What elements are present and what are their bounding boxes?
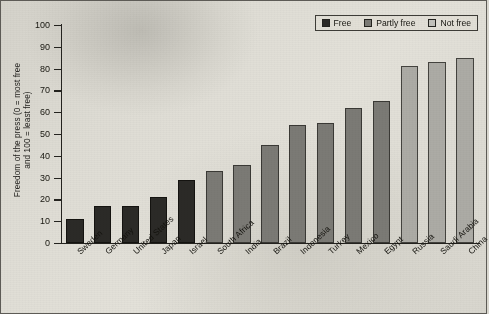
bar-saudi-arabia[interactable]: [428, 62, 445, 243]
y-axis-tick: 20: [54, 199, 61, 200]
x-label-cell: Turkey: [312, 246, 340, 312]
y-axis-tick-label: 60: [40, 107, 50, 117]
x-axis-category-labels: SwedenGermanyUnited StatesJapanIsraelSou…: [61, 246, 480, 312]
chart-legend: FreePartly freeNot free: [315, 15, 478, 31]
y-axis-tick: 30: [54, 178, 61, 179]
y-axis-tick: 60: [54, 112, 61, 113]
y-axis-tick: 100: [54, 25, 61, 26]
bar-russia[interactable]: [401, 66, 418, 243]
bar-cell: [172, 25, 200, 243]
legend-swatch-icon-not: [428, 19, 436, 27]
x-label-cell: Israel: [173, 246, 201, 312]
bar-cell: [145, 25, 173, 243]
x-label-cell: Sweden: [61, 246, 89, 312]
x-label-cell: Indonesia: [285, 246, 313, 312]
bar-israel[interactable]: [178, 180, 195, 243]
bar-cell: [395, 25, 423, 243]
bar-cell: [367, 25, 395, 243]
bar-cell: [200, 25, 228, 243]
y-axis-tick-label: 10: [40, 216, 50, 226]
x-label-cell: India: [229, 246, 257, 312]
legend-swatch-icon-partly: [364, 19, 372, 27]
plot-area: 0102030405060708090100: [61, 25, 479, 243]
x-label-cell: Germany: [89, 246, 117, 312]
y-axis-tick-label: 80: [40, 64, 50, 74]
bar-indonesia[interactable]: [289, 125, 306, 243]
y-axis-tick: 0: [54, 243, 61, 244]
bar-brazil[interactable]: [261, 145, 278, 243]
legend-label: Not free: [440, 18, 471, 28]
bar-sweden[interactable]: [66, 219, 83, 243]
x-label-cell: Russia: [396, 246, 424, 312]
y-axis-tick: 70: [54, 90, 61, 91]
x-label-cell: Saudi Arabia: [424, 246, 452, 312]
y-axis-tick: 90: [54, 47, 61, 48]
bar-series-group: [61, 25, 479, 243]
y-axis-tick-label: 20: [40, 194, 50, 204]
bar-cell: [423, 25, 451, 243]
y-axis-tick-label: 70: [40, 85, 50, 95]
legend-item-not[interactable]: Not free: [428, 18, 471, 28]
y-axis-tick-label: 50: [40, 129, 50, 139]
legend-label: Free: [334, 18, 352, 28]
x-label-cell: Japan: [145, 246, 173, 312]
bar-china[interactable]: [456, 58, 473, 243]
bar-cell: [117, 25, 145, 243]
bar-mexico[interactable]: [345, 108, 362, 243]
x-label-cell: South Africa: [201, 246, 229, 312]
y-axis-tick-label: 90: [40, 42, 50, 52]
bar-cell: [312, 25, 340, 243]
y-axis-tick: 80: [54, 69, 61, 70]
y-axis-tick: 40: [54, 156, 61, 157]
bar-cell: [228, 25, 256, 243]
x-label-cell: Mexico: [340, 246, 368, 312]
bar-cell: [89, 25, 117, 243]
y-axis-title: Freedom of the press (0 = most free and …: [13, 37, 33, 223]
legend-label: Partly free: [376, 18, 415, 28]
y-axis-tick-label: 40: [40, 151, 50, 161]
x-label-cell: Brazil: [257, 246, 285, 312]
y-axis-tick-label: 0: [45, 238, 50, 248]
y-axis-tick: 50: [54, 134, 61, 135]
y-axis-tick: 10: [54, 221, 61, 222]
bar-cell: [256, 25, 284, 243]
bar-south-africa[interactable]: [206, 171, 223, 243]
y-axis-tick-label: 30: [40, 173, 50, 183]
bar-cell: [340, 25, 368, 243]
legend-item-free[interactable]: Free: [322, 18, 352, 28]
bar-egypt[interactable]: [373, 101, 390, 243]
bar-cell: [451, 25, 479, 243]
x-label-cell: China: [452, 246, 480, 312]
bar-cell: [61, 25, 89, 243]
y-axis-tick-label: 100: [35, 20, 50, 30]
legend-item-partly[interactable]: Partly free: [364, 18, 415, 28]
x-label-cell: Egypt: [368, 246, 396, 312]
bar-cell: [284, 25, 312, 243]
x-label-cell: United States: [117, 246, 145, 312]
legend-swatch-icon-free: [322, 19, 330, 27]
